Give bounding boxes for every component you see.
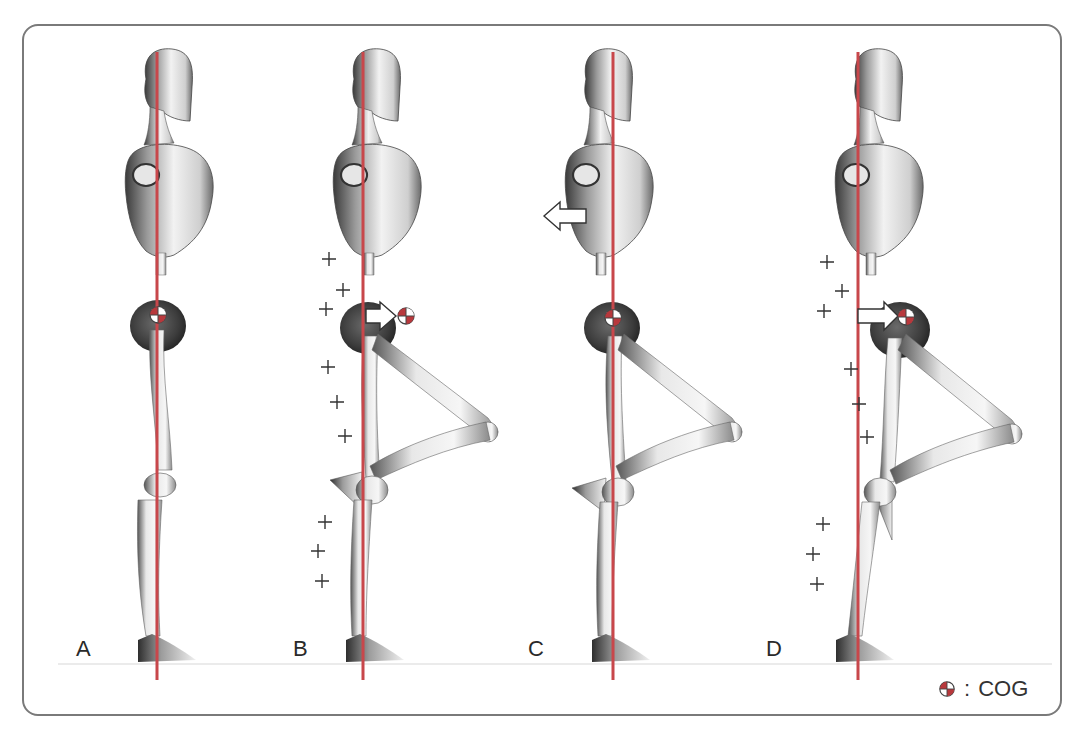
cog-symbol-d bbox=[898, 309, 914, 325]
cog-symbol-b bbox=[398, 308, 414, 324]
figure-a bbox=[125, 49, 213, 680]
posture-diagram bbox=[0, 0, 1087, 733]
panel-label-d: D bbox=[766, 636, 782, 662]
panel-label-b: B bbox=[293, 636, 308, 662]
cog-symbol-a bbox=[150, 307, 166, 323]
legend-separator: : bbox=[964, 676, 970, 702]
cog-icon bbox=[938, 680, 956, 698]
legend: : COG bbox=[938, 676, 1028, 702]
figure-c bbox=[544, 49, 742, 680]
plus-marks-b bbox=[311, 252, 352, 588]
panel-label-a: A bbox=[76, 636, 91, 662]
figure-b bbox=[311, 49, 498, 680]
panel-label-c: C bbox=[528, 636, 544, 662]
legend-text: COG bbox=[978, 676, 1028, 702]
cog-symbol-c bbox=[605, 310, 621, 326]
figure-d bbox=[806, 49, 1022, 680]
